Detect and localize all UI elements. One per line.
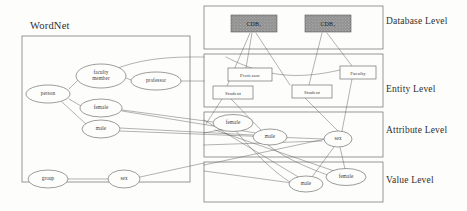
attribute-node-attr-male[interactable] — [253, 129, 287, 145]
edge-e-cdb2-faculty — [327, 33, 352, 66]
edge-e-attr-sex-valfemale — [340, 147, 345, 169]
database-nodes-group — [231, 15, 351, 32]
entity-node-ent-faculty[interactable] — [340, 66, 376, 79]
edge-e-cdb2-stud2 — [309, 33, 322, 85]
edge-e-faculty-out-top — [118, 57, 204, 68]
wordnet-node-wn-sex[interactable] — [108, 170, 140, 188]
edge-e-attr-male-val — [268, 145, 330, 176]
wordnet-node-wn-male[interactable] — [82, 120, 120, 138]
diagram-vector-layer — [0, 0, 467, 211]
edge-e-person-faculty — [69, 80, 78, 89]
entity-node-ent-professor[interactable] — [228, 68, 272, 81]
value-node-val-female[interactable] — [326, 169, 366, 186]
edge-e-wn-female-attr1 — [122, 110, 213, 122]
edge-e-wn-sex-in — [140, 163, 204, 177]
attribute-node-attr-female[interactable] — [213, 115, 253, 132]
attribute-node-attr-sex[interactable] — [324, 131, 352, 147]
entity-node-ent-student-1[interactable] — [213, 86, 253, 99]
wordnet-node-wn-faculty-member[interactable] — [76, 64, 126, 88]
wordnet-node-wn-professor[interactable] — [131, 72, 181, 90]
database-node-cdb-2[interactable] — [305, 15, 351, 32]
value-node-val-male[interactable] — [289, 176, 323, 192]
figure-canvas: CDB₁CDB₂ProfessorFacultyStudentStudentpe… — [0, 0, 467, 211]
edge-e-cdb1-prof — [246, 33, 252, 68]
wordnet-node-wn-female[interactable] — [80, 99, 122, 117]
edge-e-faculty-professor — [126, 78, 131, 80]
wordnet-node-wn-person[interactable] — [26, 85, 70, 103]
entity-node-ent-student-2[interactable] — [292, 85, 332, 98]
edge-e-stud2-down — [305, 98, 338, 131]
edge-e-fac-down — [342, 79, 352, 131]
database-node-cdb-1[interactable] — [231, 15, 277, 32]
wordnet-node-wn-group[interactable] — [28, 170, 68, 188]
edge-e-person-female — [69, 99, 81, 106]
edge-e-cross-long1 — [204, 171, 292, 183]
